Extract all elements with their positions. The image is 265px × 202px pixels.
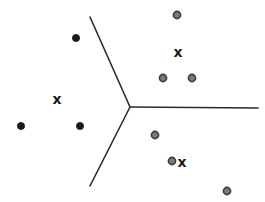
filled-data-point [17, 122, 24, 129]
filled-data-point [76, 122, 83, 129]
cluster-center-marker: x [52, 91, 61, 107]
ring-data-point [223, 187, 230, 194]
plot-canvas: xxx [0, 0, 265, 202]
cluster-center-marker: x [173, 44, 182, 60]
ring-data-point [159, 74, 166, 81]
plot-background [0, 0, 265, 202]
ring-data-point [168, 157, 175, 164]
ring-data-point [188, 74, 195, 81]
ring-data-point [173, 11, 180, 18]
cluster-center-marker: x [177, 154, 186, 170]
filled-data-point [72, 34, 79, 41]
scatter-figure: xxx [0, 0, 265, 202]
ring-data-point [151, 131, 158, 138]
right-branch [130, 107, 258, 108]
